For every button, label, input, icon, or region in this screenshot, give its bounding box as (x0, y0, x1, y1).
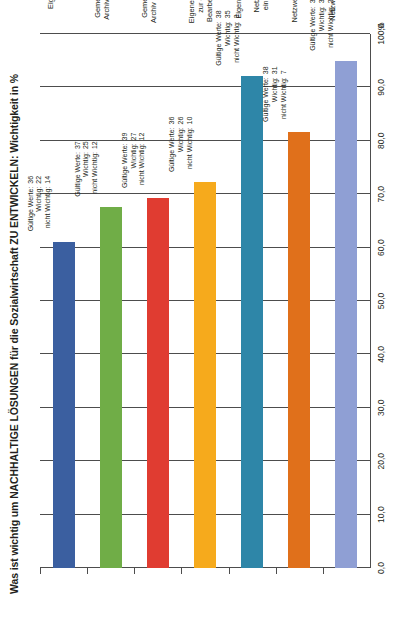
annotation-key-valid: Gültige Werte: (74, 152, 83, 204)
bar[interactable] (288, 132, 310, 568)
annotation-key-important: Wichtig: (35, 187, 44, 239)
annotation-value-valid: 36 (168, 112, 177, 124)
annotation-value-important: 27 (130, 128, 139, 140)
category-tick (323, 568, 324, 574)
category-tick (276, 568, 277, 574)
annotation-value-not-important: 12 (91, 137, 100, 149)
x-axis-tick-label: 80,0 (376, 133, 386, 150)
annotation-key-important: Wichtig: (318, 6, 327, 58)
x-axis-tick-label: 60,0 (376, 239, 386, 256)
category-tick (134, 568, 135, 574)
annotation-key-not-important: nicht Wichtig: (186, 127, 195, 179)
bar[interactable] (100, 207, 122, 568)
annotation-value-valid: 39 (309, 0, 318, 3)
annotation-value-valid: 36 (27, 172, 36, 184)
category-tick (181, 568, 182, 574)
bar[interactable] (241, 76, 263, 568)
x-axis-tick-label: 70,0 (376, 186, 386, 203)
annotation-key-not-important: nicht Wichtig: (327, 6, 336, 58)
annotation-value-important: 22 (35, 172, 44, 184)
category-label: Gemeinsames Online-Archiv für Publikatio… (93, 0, 111, 24)
category-label: Gemeinsames Online-Archiv zur Profilabla… (140, 0, 167, 24)
bar[interactable] (335, 61, 357, 568)
bar[interactable] (147, 198, 169, 568)
annotation-key-not-important: nicht Wichtig: (280, 77, 289, 129)
annotation-value-not-important: 2 (327, 0, 336, 3)
category-tick (229, 568, 230, 574)
annotation-key-not-important: nicht Wichtig: (138, 143, 147, 195)
chart-canvas: Was ist wichtig um NACHHALTIGE LÖSUNGEN … (0, 0, 395, 630)
annotation-key-valid: Gültige Werte: (309, 6, 318, 58)
bar-annotation: Gültige Werte:36Wichtig:26nicht Wichtig:… (168, 112, 194, 179)
annotation-value-important: 35 (224, 6, 233, 18)
annotation-value-important: 37 (318, 0, 327, 3)
plot-area: 0,010,020,030,040,050,060,070,080,090,01… (40, 34, 370, 568)
x-axis-tick-label: 50,0 (376, 293, 386, 310)
annotation-value-important: 25 (82, 137, 91, 149)
bar-chart-figure: Was ist wichtig um NACHHALTIGE LÖSUNGEN … (0, 0, 395, 630)
annotation-key-not-important: nicht Wichtig: (233, 21, 242, 73)
x-axis-tick-label: 10,0 (376, 506, 386, 523)
x-axis-tick-label: 90,0 (376, 79, 386, 96)
annotation-key-important: Wichtig: (224, 21, 233, 73)
annotation-key-not-important: nicht Wichtig: (91, 152, 100, 204)
annotation-value-not-important: 12 (138, 128, 147, 140)
bar[interactable] (194, 182, 216, 568)
x-axis-tick-label: 40,0 (376, 346, 386, 363)
annotation-value-not-important: 10 (186, 112, 195, 124)
annotation-value-valid: 38 (215, 6, 224, 18)
annotation-value-important: 26 (177, 112, 186, 124)
bar-annotation: Gültige Werte:38Wichtig:35nicht Wichtig:… (215, 6, 241, 73)
annotation-key-valid: Gültige Werte: (262, 77, 271, 129)
chart-title: Was ist wichtig um NACHHALTIGE LÖSUNGEN … (8, 74, 20, 594)
category-label: Eigener „Learning Space“ zur gezielten o… (187, 0, 214, 24)
category-label: Eigene Netzwerk Homepage (46, 0, 64, 24)
bar[interactable] (53, 242, 75, 568)
x-axis-tick-label: 0,0 (376, 562, 386, 574)
annotation-key-valid: Gültige Werte: (121, 143, 130, 195)
value-axis-line (370, 34, 371, 568)
category-tick (87, 568, 88, 574)
annotation-key-valid: Gültige Werte: (215, 21, 224, 73)
category-tick (40, 568, 41, 574)
axis-unit-label: % (376, 22, 386, 30)
x-axis-tick-label: 30,0 (376, 400, 386, 417)
annotation-key-valid: Gültige Werte: (27, 187, 36, 239)
annotation-key-valid: Gültige Werte: (168, 127, 177, 179)
bar-annotation: Gültige Werte:38Wichtig:31nicht Wichtig:… (262, 62, 288, 129)
annotation-value-valid: 39 (121, 128, 130, 140)
bar-annotation: Gültige Werte:39Wichtig:27nicht Wichtig:… (121, 128, 147, 195)
bar-annotation: Gültige Werte:36Wichtig:22nicht Wichtig:… (27, 172, 53, 239)
annotation-key-important: Wichtig: (82, 152, 91, 204)
annotation-key-important: Wichtig: (177, 127, 186, 179)
annotation-value-valid: 38 (262, 62, 271, 74)
annotation-key-important: Wichtig: (130, 143, 139, 195)
x-axis-tick-label: 20,0 (376, 453, 386, 470)
bar-annotation: Gültige Werte:37Wichtig:25nicht Wichtig:… (74, 137, 100, 204)
gridline (40, 86, 370, 87)
annotation-value-valid: 37 (74, 137, 83, 149)
bar-annotation: Gültige Werte:39Wichtig:37nicht Wichtig:… (309, 0, 335, 58)
annotation-key-not-important: nicht Wichtig: (44, 187, 53, 239)
annotation-value-important: 31 (271, 62, 280, 74)
annotation-value-not-important: 3 (233, 6, 242, 18)
annotation-value-not-important: 14 (44, 172, 53, 184)
annotation-value-not-important: 7 (280, 62, 289, 74)
category-label: Regionale Netzwerkgruppen Treffen (281, 0, 299, 24)
annotation-key-important: Wichtig: (271, 77, 280, 129)
